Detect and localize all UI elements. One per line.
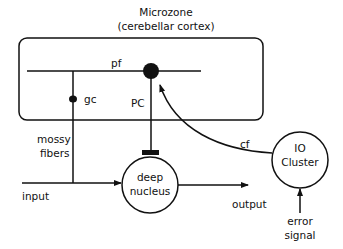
label-cluster: Cluster [272,156,328,168]
title-cortex: (cerebellar cortex) [91,20,241,32]
label-io: IO [272,142,328,154]
label-pc: PC [131,97,145,109]
label-cf: cf [240,138,249,150]
climbing-fiber [160,85,272,153]
label-mossy: mossy [37,133,71,145]
label-input: input [22,190,49,202]
label-nucleus: nucleus [122,185,178,197]
label-gc: gc [84,93,96,105]
label-fibers: fibers [40,147,70,159]
label-deep: deep [122,171,178,183]
inhibitory-synapse [142,150,159,155]
granule-cell [69,96,77,103]
label-pf: pf [111,57,121,69]
label-signal: signal [272,229,328,241]
label-error: error [272,215,328,227]
cerebellar-diagram [0,0,343,249]
label-output: output [232,198,267,210]
title-microzone: Microzone [101,6,231,18]
